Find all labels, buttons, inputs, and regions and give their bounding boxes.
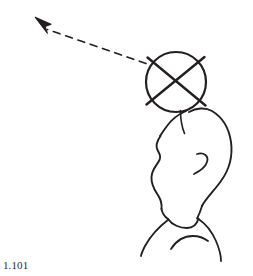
figure-caption: 1.101 [3,259,28,272]
figure-background [0,0,253,276]
figure-illustration [0,0,253,276]
